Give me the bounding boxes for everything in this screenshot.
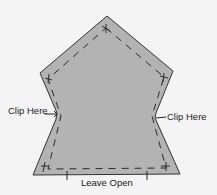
leave-open-label: Leave Open	[81, 177, 133, 188]
clip-here-left-label: Clip Here	[8, 105, 48, 116]
clip-here-right-label: Clip Here	[167, 111, 207, 122]
pattern-diagram	[0, 0, 217, 195]
